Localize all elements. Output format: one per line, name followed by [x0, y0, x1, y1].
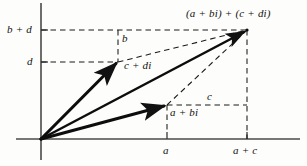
label-x-axis-a: a: [163, 145, 169, 156]
label-sum: (a + bi) + (c + di): [186, 8, 271, 19]
figure-canvas: [0, 0, 307, 166]
vertex-dot-sum: [245, 28, 248, 31]
vector-sum: [41, 32, 244, 139]
label-vector-c-plus-di: c + di: [124, 60, 152, 71]
label-vector-a-plus-bi: a + bi: [170, 107, 198, 118]
label-x-axis-a-plus-c: a + c: [233, 145, 257, 156]
label-y-axis-d: d: [27, 56, 33, 67]
label-segment-b: b: [122, 33, 128, 44]
complex-addition-figure: (a + bi) + (c + di) b + d d b c + di a +…: [0, 0, 307, 166]
vertex-dots-group: [245, 28, 248, 31]
dashed-parallelogram-edge-upper: [118, 30, 247, 62]
label-segment-c: c: [207, 91, 212, 102]
axes-group: [16, 3, 300, 160]
label-y-axis-b-plus-d: b + d: [7, 24, 32, 35]
vectors-group: [41, 32, 244, 139]
